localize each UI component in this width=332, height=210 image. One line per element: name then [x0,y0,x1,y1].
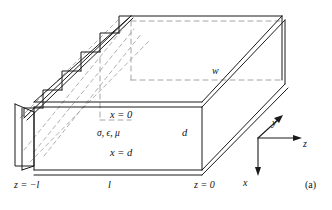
coordinate-axes-group [258,118,298,172]
label-x-equals-d: x = d [110,148,132,159]
label-axis-x: x [243,178,247,188]
right-end-group [282,16,285,84]
top-plate-group [34,16,285,107]
axis-y-line [258,118,280,138]
label-plate-separation-d: d [182,128,187,139]
bottom-plate-right-edge-thickness [202,88,288,175]
left-end-face-inner-bottom [22,166,34,170]
diagram-canvas [0,0,332,210]
label-axis-z: z [303,139,307,149]
projection-line-4 [20,20,118,118]
axis-arrowheads-group [255,115,302,176]
projection-line-3 [44,33,142,156]
step-projection-lines-group [20,20,150,162]
label-x-equals-0: x = 0 [110,110,132,121]
label-z-equals-0: z = 0 [194,180,215,190]
staircase-step-2 [43,90,62,108]
label-material-parameters: σ, ϵ, μ [97,129,120,139]
staircase-step-3 [62,71,81,90]
top-plate-right-edge [202,16,282,102]
waveguide-figure: x = 0 σ, ϵ, μ x = d d w z = −l l z = 0 x… [0,0,332,210]
bottom-plate-group [34,84,288,175]
staircase-diagonal-ridge-inner [27,18,133,120]
top-plate-right-edge-thickness [202,20,285,107]
axis-z-arrowhead [293,135,302,141]
figure-caption: (a) [305,180,316,190]
label-z-equals-minus-l: z = −l [14,180,39,190]
label-width-w: w [212,66,219,76]
top-plate-left-edge [34,16,131,102]
hidden-edges-group [100,21,282,120]
staircase-steps-group [24,16,133,120]
label-axis-y: y [272,118,276,128]
label-length-l: l [108,180,111,191]
projection-line-5 [30,40,150,162]
axis-x-arrowhead [255,167,261,176]
